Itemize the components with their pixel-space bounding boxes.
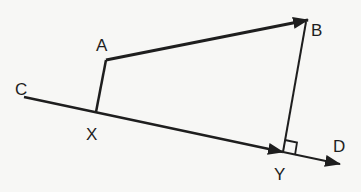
label-Y: Y (274, 165, 285, 184)
label-A: A (96, 36, 108, 55)
label-D: D (333, 137, 345, 156)
vector-AB (106, 20, 308, 60)
segment-YB (283, 22, 306, 152)
label-B: B (311, 21, 322, 40)
label-C: C (15, 80, 27, 99)
line-CY (24, 97, 283, 152)
geometry-diagram: A B C X Y D (0, 0, 361, 192)
segment-XA (96, 60, 106, 112)
line-YD (283, 152, 340, 164)
label-X: X (86, 125, 97, 144)
